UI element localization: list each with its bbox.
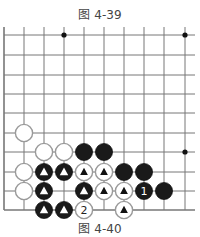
star-point xyxy=(61,32,66,37)
white-stone xyxy=(15,182,32,199)
black-stone xyxy=(135,163,152,180)
white-stone xyxy=(15,163,32,180)
black-stone xyxy=(115,163,132,180)
star-point xyxy=(182,32,187,37)
black-stone xyxy=(155,182,172,199)
go-board-diagram: 12 xyxy=(0,0,200,237)
black-stone xyxy=(75,143,92,160)
star-point xyxy=(182,149,187,154)
black-stone xyxy=(95,143,112,160)
figure-caption-bottom: 图 4-40 xyxy=(0,219,200,236)
white-stone xyxy=(35,143,52,160)
white-stone xyxy=(55,143,72,160)
white-stone xyxy=(15,124,32,141)
move-number: 1 xyxy=(141,185,148,198)
move-number: 2 xyxy=(81,204,88,217)
